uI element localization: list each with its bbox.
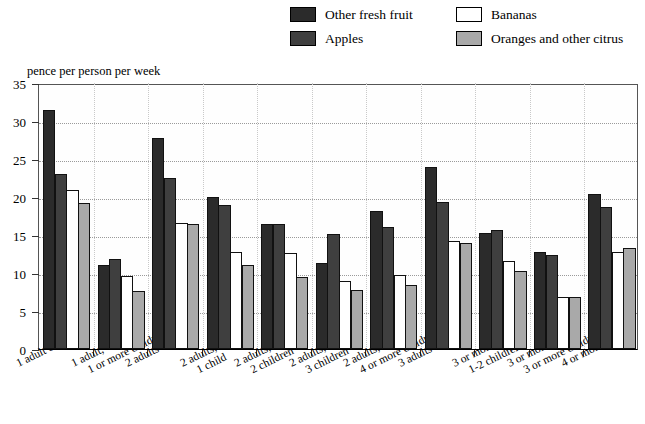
bar <box>273 224 285 349</box>
bar <box>588 194 600 349</box>
y-axis-tick-mark <box>32 198 39 199</box>
bar <box>121 276 133 349</box>
legend-label-bananas: Bananas <box>491 7 537 22</box>
group-separator <box>257 83 258 349</box>
y-axis-tick-label: 35 <box>13 78 26 91</box>
legend-item-other-fresh-fruit: Other fresh fruit <box>290 7 413 22</box>
y-axis-title: pence per person per week <box>27 64 160 79</box>
y-axis-tick-mark <box>32 84 39 85</box>
bar <box>187 224 199 349</box>
group-separator <box>366 83 367 349</box>
bar <box>448 241 460 349</box>
bar <box>55 174 67 349</box>
y-axis-tick-mark <box>32 236 39 237</box>
bar <box>503 261 515 349</box>
bar <box>152 138 164 349</box>
bar <box>164 178 176 349</box>
y-axis-tick-label: 5 <box>20 306 27 319</box>
bar <box>491 230 503 349</box>
bar <box>261 224 273 349</box>
bar <box>546 255 558 349</box>
y-axis-tick-mark <box>32 122 39 123</box>
bar <box>612 252 624 349</box>
bar <box>242 265 254 349</box>
bar <box>284 253 296 349</box>
legend-swatch-other-fresh-fruit <box>290 7 316 22</box>
chart-plot-area <box>38 84 638 350</box>
legend-swatch-bananas <box>456 7 482 22</box>
bar <box>207 197 219 349</box>
bar <box>43 110 55 349</box>
bar <box>175 223 187 349</box>
bar <box>327 234 339 349</box>
legend-label-oranges: Oranges and other citrus <box>491 31 623 46</box>
y-axis-tick-label: 15 <box>13 230 26 243</box>
bar <box>382 227 394 349</box>
bar <box>600 207 612 349</box>
group-separator <box>421 83 422 349</box>
bar <box>623 248 635 349</box>
group-separator <box>94 83 95 349</box>
legend-swatch-apples <box>290 31 316 46</box>
bar <box>569 297 581 349</box>
bar <box>370 211 382 349</box>
bar <box>296 277 308 349</box>
bar <box>66 190 78 349</box>
bar <box>436 202 448 349</box>
bar <box>78 203 90 349</box>
group-separator <box>530 83 531 349</box>
y-axis-tick-mark <box>32 312 39 313</box>
bar <box>316 263 328 349</box>
bar <box>534 252 546 349</box>
bar <box>557 297 569 349</box>
bar <box>132 291 144 349</box>
bar <box>98 265 110 349</box>
bars-layer <box>39 85 637 349</box>
group-separator <box>148 83 149 349</box>
y-axis-tick-label: 20 <box>13 192 26 205</box>
group-separator <box>203 83 204 349</box>
bar <box>230 252 242 349</box>
group-separator <box>312 83 313 349</box>
legend-swatch-oranges <box>456 31 482 46</box>
bar <box>351 290 363 349</box>
bar <box>479 233 491 349</box>
bar <box>425 167 437 349</box>
bar <box>109 259 121 349</box>
legend-item-bananas: Bananas <box>456 7 537 22</box>
group-separator <box>475 83 476 349</box>
y-axis-tick-mark <box>32 274 39 275</box>
legend-item-apples: Apples <box>290 31 363 46</box>
y-axis-tick-label: 30 <box>13 116 26 129</box>
legend: Other fresh fruit Apples Bananas Oranges… <box>290 6 640 52</box>
y-axis-tick-mark <box>32 160 39 161</box>
y-axis-tick-label: 25 <box>13 154 26 167</box>
bar <box>394 275 406 349</box>
legend-label-other-fresh-fruit: Other fresh fruit <box>325 7 413 22</box>
legend-item-oranges: Oranges and other citrus <box>456 31 623 46</box>
legend-label-apples: Apples <box>325 31 363 46</box>
group-separator <box>584 83 585 349</box>
bar <box>339 281 351 349</box>
bar <box>514 271 526 349</box>
bar <box>460 243 472 349</box>
y-axis-tick-label: 10 <box>13 268 26 281</box>
bar <box>405 285 417 349</box>
bar <box>218 205 230 349</box>
